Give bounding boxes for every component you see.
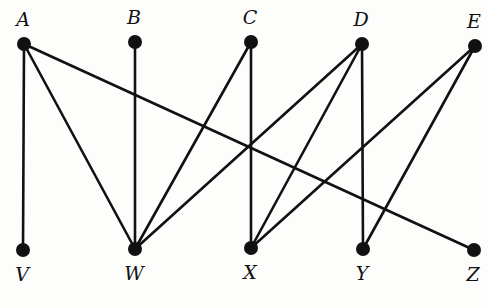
node-c (244, 35, 258, 49)
node-label-y: Y (356, 262, 371, 284)
node-label-z: Z (465, 263, 480, 285)
node-label-c: C (243, 6, 258, 28)
node-w (128, 242, 142, 256)
node-a (17, 37, 31, 51)
edges-group (23, 42, 475, 250)
node-label-x: X (241, 261, 258, 283)
edge-d-w (135, 44, 362, 249)
node-v (16, 243, 30, 257)
node-y (356, 242, 370, 256)
edge-c-w (135, 42, 251, 249)
node-z (467, 243, 481, 257)
node-label-w: W (124, 262, 145, 284)
edge-e-y (363, 46, 475, 249)
edge-a-v (23, 44, 24, 250)
edge-d-x (251, 44, 362, 248)
edge-a-w (24, 44, 135, 249)
node-label-e: E (466, 10, 481, 32)
node-label-a: A (14, 8, 30, 30)
node-e (468, 39, 482, 53)
node-b (128, 35, 142, 49)
node-label-v: V (15, 263, 31, 285)
node-d (355, 37, 369, 51)
node-label-b: B (126, 6, 141, 28)
node-x (244, 241, 258, 255)
node-label-d: D (352, 8, 368, 30)
bipartite-graph: ABCDEVWXYZ (0, 0, 488, 308)
